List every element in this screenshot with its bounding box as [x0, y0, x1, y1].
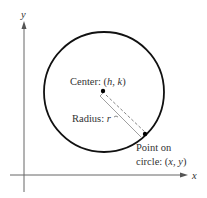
- y-axis-arrow-icon: [22, 21, 27, 29]
- center-point: [101, 89, 105, 93]
- x-axis-label: x: [192, 170, 197, 182]
- center-label: Center: (h, k): [70, 76, 126, 88]
- x-axis-arrow-icon: [180, 173, 188, 178]
- point-label-line1: Point on: [136, 142, 171, 154]
- radius-label: Radius: r: [72, 113, 111, 125]
- radius-line: [106, 95, 146, 133]
- y-axis-label: y: [21, 9, 26, 21]
- circle-point: [143, 132, 147, 136]
- circle-diagram: y x Center: (h, k) Radius: r Point on ci…: [0, 0, 207, 198]
- point-label-line2: circle: (x, y): [136, 156, 186, 168]
- diagram-graphics: [0, 0, 207, 198]
- radius-pointer: [114, 116, 118, 117]
